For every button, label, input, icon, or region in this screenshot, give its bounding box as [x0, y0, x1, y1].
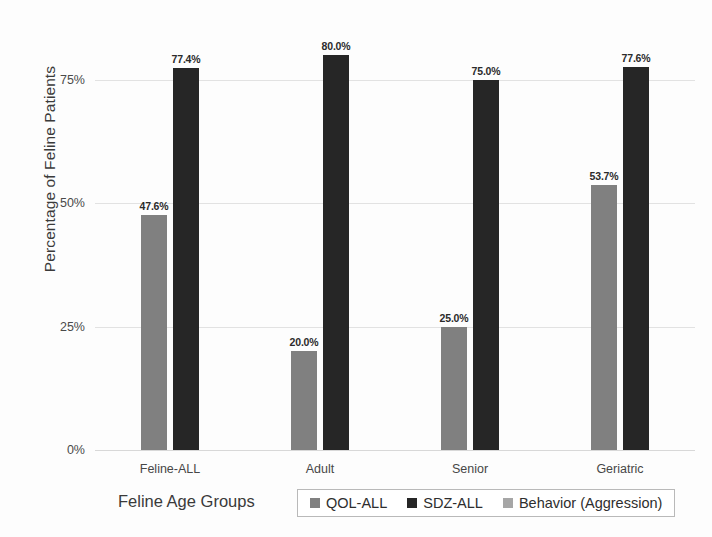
bar[interactable]: 80.0%: [323, 55, 349, 450]
bar-value-label: 25.0%: [440, 312, 469, 324]
bar-value-label: 47.6%: [140, 200, 169, 212]
x-category-label: Feline-ALL: [140, 462, 200, 476]
x-axis-title: Feline Age Groups: [118, 492, 255, 511]
bar-chart: Percentage of Feline Patients 75%50%25%0…: [0, 0, 712, 537]
bar-value-label: 80.0%: [322, 40, 351, 52]
bar-value-label: 53.7%: [590, 170, 619, 182]
bar[interactable]: 20.0%: [291, 351, 317, 450]
bar[interactable]: 25.0%: [441, 327, 467, 450]
plot-area: 75%50%25%0%47.6%77.4%20.0%80.0%25.0%75.0…: [95, 18, 695, 450]
bar-group: 47.6%77.4%: [141, 18, 199, 450]
bar-group: 25.0%75.0%: [441, 18, 499, 450]
legend-label: QOL-ALL: [326, 495, 387, 511]
y-tick-label: 25%: [60, 320, 85, 334]
bar-group: 53.7%77.6%: [591, 18, 649, 450]
bar-group: 20.0%80.0%: [291, 18, 349, 450]
y-tick-label: 0%: [67, 443, 85, 457]
y-tick-label: 75%: [60, 73, 85, 87]
bar[interactable]: 77.4%: [173, 68, 199, 450]
bar[interactable]: 75.0%: [473, 80, 499, 450]
bar[interactable]: 77.6%: [623, 67, 649, 450]
legend-swatch-icon: [310, 498, 320, 508]
bar-value-label: 77.4%: [172, 53, 201, 65]
bar-value-label: 20.0%: [290, 336, 319, 348]
bar[interactable]: 53.7%: [591, 185, 617, 450]
legend-label: SDZ-ALL: [423, 495, 483, 511]
legend-swatch-icon: [503, 498, 513, 508]
bar[interactable]: 47.6%: [141, 215, 167, 450]
legend-entry[interactable]: QOL-ALL: [310, 495, 387, 511]
legend: QOL-ALLSDZ-ALLBehavior (Aggression): [297, 489, 675, 517]
legend-swatch-icon: [407, 498, 417, 508]
y-axis-title: Percentage of Feline Patients: [41, 19, 59, 319]
y-tick-label: 50%: [60, 196, 85, 210]
x-category-label: Adult: [306, 462, 335, 476]
axis-baseline: [95, 450, 695, 451]
bar-value-label: 77.6%: [622, 52, 651, 64]
legend-entry[interactable]: Behavior (Aggression): [503, 495, 662, 511]
bar-value-label: 75.0%: [472, 65, 501, 77]
x-category-label: Geriatric: [596, 462, 643, 476]
legend-label: Behavior (Aggression): [519, 495, 662, 511]
legend-entry[interactable]: SDZ-ALL: [407, 495, 483, 511]
x-category-label: Senior: [452, 462, 488, 476]
